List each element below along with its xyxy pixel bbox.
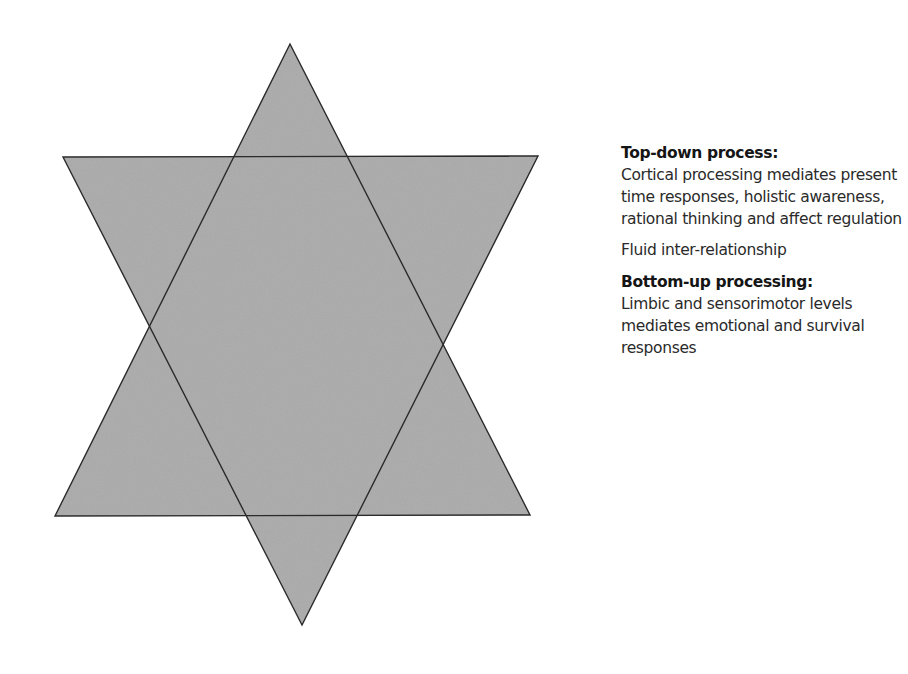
top-down-block: Top-down process: Cortical processing me… — [621, 142, 906, 230]
bottom-up-block: Bottom-up processing: Limbic and sensori… — [621, 271, 906, 359]
top-down-heading: Top-down process: — [621, 142, 906, 164]
relationship-block: Fluid inter-relationship — [621, 239, 906, 261]
bottom-up-description: Limbic and sensorimotor levels mediates … — [621, 293, 906, 359]
relationship-text: Fluid inter-relationship — [621, 239, 906, 261]
top-down-description: Cortical processing mediates present tim… — [621, 164, 906, 230]
bottom-up-heading: Bottom-up processing: — [621, 271, 906, 293]
star-fill — [55, 44, 538, 625]
legend: Top-down process: Cortical processing me… — [621, 142, 906, 359]
